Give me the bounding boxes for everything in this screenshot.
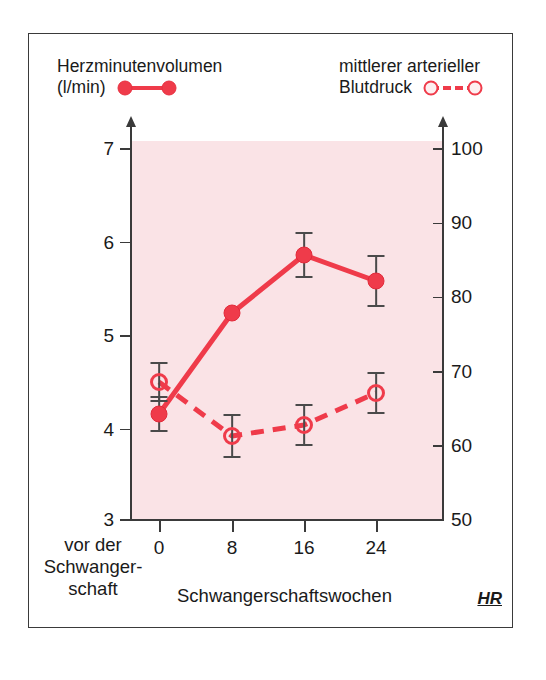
errorbar-cap-top [296,404,313,406]
y-right-label-90: 90 [451,212,472,234]
datapoint-cardiac-output-16 [296,247,313,264]
x-tick-24 [376,521,378,532]
legend-blood-pressure-line2: Blutdruck [339,77,412,98]
x-axis-line [130,519,444,521]
errorbar-cap-top [224,414,241,416]
datapoint-blood-pressure-0 [150,373,168,391]
datapoint-blood-pressure-16 [295,416,313,434]
errorbar-cap-bottom [224,456,241,458]
errorbar-cap-top [368,255,385,257]
legend-blood-pressure: mittlerer arterieller Blutdruck [339,56,484,99]
y-left-tick-3 [120,519,131,521]
y-left-label-3: 3 [103,509,114,531]
plot-area [131,141,443,519]
datapoint-cardiac-output-8 [224,305,241,322]
datapoint-cardiac-output-0 [151,406,168,423]
x-axis-title: Schwangerschaftswochen [177,585,392,607]
pre-pregnancy-label-line1: vor der [37,534,149,556]
y-right-label-50: 50 [451,509,472,531]
y-right-tick-90 [433,223,444,225]
legend-swatch-open-circle-dashed-line [422,79,484,97]
y-axis-left-line [130,126,132,521]
datapoint-blood-pressure-8 [223,427,241,445]
errorbar-cap-bottom [151,430,168,432]
x-label-8: 8 [227,537,238,559]
legend-swatch-filled-circle-solid-line [116,79,178,97]
pre-pregnancy-label-line2: Schwanger- [37,556,149,578]
y-right-label-100: 100 [451,138,483,160]
legend-cardiac-output-line2: (l/min) [57,77,106,98]
errorbar-cap-top [368,372,385,374]
y-left-tick-5 [120,335,131,337]
y-right-label-80: 80 [451,286,472,308]
y-left-tick-6 [120,242,131,244]
y-right-tick-50 [433,519,444,521]
y-right-label-60: 60 [451,435,472,457]
y-axis-right-arrow-icon [438,116,448,127]
datapoint-blood-pressure-24 [367,384,385,402]
legend-blood-pressure-line1: mittlerer arterieller [339,56,484,77]
x-tick-16 [304,521,306,532]
errorbar-cap-bottom [296,444,313,446]
errorbar-cap-bottom [368,412,385,414]
y-axis-right-line [442,126,444,521]
figure-frame: Herzminutenvolumen (l/min) mittlerer art… [28,33,513,628]
x-label-0: 0 [154,537,165,559]
x-label-24: 24 [365,537,386,559]
x-label-16: 16 [293,537,314,559]
x-tick-8 [232,521,234,532]
y-right-tick-100 [433,148,444,150]
legend-cardiac-output-line1: Herzminutenvolumen [57,56,222,77]
pre-pregnancy-label-line3: schaft [37,578,149,600]
y-right-tick-70 [433,371,444,373]
errorbar-cap-bottom [151,400,168,402]
credit-label: HR [477,589,502,609]
errorbar-cap-top [151,362,168,364]
errorbar-cap-bottom [368,305,385,307]
legend-marker-filled-circle-right [161,81,176,96]
x-tick-0 [159,521,161,532]
y-axis-left-arrow-icon [126,116,136,127]
y-left-label-6: 6 [103,232,114,254]
pre-pregnancy-label: vor der Schwanger- schaft [37,534,149,599]
errorbar-cap-top [296,232,313,234]
y-left-label-7: 7 [103,138,114,160]
datapoint-cardiac-output-24 [368,273,385,290]
legend-cardiac-output: Herzminutenvolumen (l/min) [57,56,222,99]
legend-marker-filled-circle-left [117,81,132,96]
legend-marker-open-circle-right [467,81,482,96]
y-left-label-4: 4 [103,419,114,441]
y-left-tick-4 [120,429,131,431]
y-right-tick-80 [433,297,444,299]
errorbar-cap-bottom [296,276,313,278]
y-right-tick-60 [433,445,444,447]
y-left-tick-7 [120,148,131,150]
y-right-label-70: 70 [451,361,472,383]
legend-marker-open-circle-left [423,81,438,96]
y-left-label-5: 5 [103,325,114,347]
